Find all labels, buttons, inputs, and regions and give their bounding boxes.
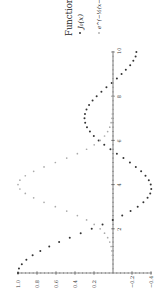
point-j0 <box>102 223 104 225</box>
point-gaussian <box>33 197 35 199</box>
point-j0 <box>144 175 146 177</box>
data-points <box>17 51 152 274</box>
point-j0 <box>135 55 137 57</box>
point-j0 <box>150 188 152 190</box>
point-gaussian <box>107 131 109 133</box>
point-gaussian <box>104 232 106 234</box>
point-gaussian <box>112 78 114 80</box>
point-gaussian <box>54 206 56 208</box>
point-gaussian <box>112 268 114 270</box>
point-j0 <box>48 245 50 247</box>
point-j0 <box>84 122 86 124</box>
point-gaussian <box>86 148 88 150</box>
point-gaussian <box>107 237 109 239</box>
point-gaussian <box>109 126 111 128</box>
point-gaussian <box>111 117 113 119</box>
point-gaussian <box>112 82 114 84</box>
point-j0 <box>142 201 144 203</box>
point-j0 <box>88 104 90 106</box>
point-gaussian <box>112 272 114 274</box>
point-gaussian <box>112 73 114 75</box>
point-j0 <box>140 170 142 172</box>
value-tick-label: 1.0 <box>15 280 21 288</box>
point-gaussian <box>112 69 114 71</box>
legend-label-j0: J₀(x) <box>77 14 85 31</box>
point-gaussian <box>112 56 114 58</box>
point-gaussian <box>112 254 114 256</box>
legend-title: Functions <box>64 0 74 36</box>
point-j0 <box>39 250 41 252</box>
legend: Functions J₀(x) e^(−½(x−4)²) <box>64 0 102 36</box>
point-j0 <box>69 237 71 239</box>
x-tick-label: 4 <box>116 183 122 186</box>
rotated-scatter-chart: 1.00.80.60.40.2−0.2−0.4246810 Functions … <box>0 0 159 306</box>
point-gaussian <box>33 170 35 172</box>
point-gaussian <box>109 241 111 243</box>
point-j0 <box>25 259 27 261</box>
point-gaussian <box>112 104 114 106</box>
value-tick-label: 0.4 <box>72 280 78 288</box>
point-gaussian <box>77 215 79 217</box>
point-j0 <box>135 166 137 168</box>
point-gaussian <box>112 87 114 89</box>
point-gaussian <box>17 184 19 186</box>
point-j0 <box>116 78 118 80</box>
point-gaussian <box>43 166 45 168</box>
point-gaussian <box>66 210 68 212</box>
point-gaussian <box>112 100 114 102</box>
legend-marker-gaussian <box>98 32 100 34</box>
point-j0 <box>121 215 123 217</box>
value-tick-label: −0.2 <box>129 276 135 288</box>
point-j0 <box>84 113 86 115</box>
point-gaussian <box>93 224 95 226</box>
point-gaussian <box>112 113 114 115</box>
point-j0 <box>17 272 19 274</box>
point-j0 <box>121 73 123 75</box>
point-gaussian <box>19 179 21 181</box>
point-gaussian <box>112 51 114 53</box>
point-gaussian <box>86 219 88 221</box>
point-j0 <box>135 51 137 53</box>
point-j0 <box>150 184 152 186</box>
point-gaussian <box>112 259 114 261</box>
point-j0 <box>125 69 127 71</box>
legend-marker-j0 <box>79 32 81 34</box>
point-j0 <box>129 64 131 66</box>
point-gaussian <box>99 140 101 142</box>
point-gaussian <box>104 135 106 137</box>
point-j0 <box>116 153 118 155</box>
x-tick-label: 2 <box>116 228 122 231</box>
point-gaussian <box>112 263 114 265</box>
point-j0 <box>89 131 91 133</box>
point-gaussian <box>77 153 79 155</box>
point-gaussian <box>112 109 114 111</box>
point-j0 <box>109 148 111 150</box>
point-gaussian <box>19 188 21 190</box>
point-j0 <box>147 197 149 199</box>
point-gaussian <box>111 250 113 252</box>
point-j0 <box>137 206 139 208</box>
point-j0 <box>80 232 82 234</box>
point-j0 <box>149 192 151 194</box>
axes: 1.00.80.60.40.2−0.2−0.4246810 <box>15 48 154 288</box>
point-j0 <box>129 162 131 164</box>
point-j0 <box>91 228 93 230</box>
point-gaussian <box>93 144 95 146</box>
x-tick-label: 6 <box>116 139 122 142</box>
point-gaussian <box>66 157 68 159</box>
point-j0 <box>105 86 107 88</box>
x-tick-label: 8 <box>116 95 122 98</box>
legend-label-gaussian: e^(−½(x−4)²) <box>96 0 102 29</box>
point-j0 <box>148 179 150 181</box>
point-j0 <box>92 100 94 102</box>
x-tick-label: 10 <box>116 48 122 54</box>
point-j0 <box>84 117 86 119</box>
point-j0 <box>86 126 88 128</box>
point-gaussian <box>110 122 112 124</box>
point-gaussian <box>112 64 114 66</box>
point-gaussian <box>110 246 112 248</box>
point-gaussian <box>112 95 114 97</box>
point-j0 <box>100 91 102 93</box>
point-gaussian <box>112 91 114 93</box>
point-j0 <box>21 263 23 265</box>
